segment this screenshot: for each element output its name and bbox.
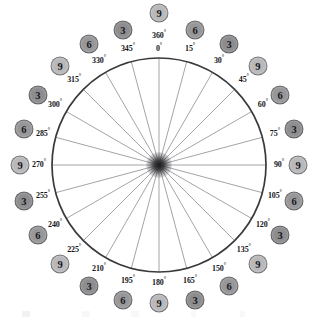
degree-label-30: 30°: [214, 57, 224, 65]
value-badge-330: 6: [80, 34, 99, 53]
degree-label-360: 360°: [152, 32, 166, 40]
value-badge-270: 9: [11, 156, 30, 175]
value-badge-210: 3: [80, 277, 99, 296]
value-badge-15: 6: [186, 20, 205, 39]
degree-label-75: 75°: [270, 130, 280, 138]
degree-label-60: 60°: [258, 101, 268, 109]
spoke-lines: [52, 58, 266, 272]
degree-label-180: 180°: [152, 279, 166, 287]
value-badge-105: 6: [285, 192, 304, 211]
value-badge-195: 6: [113, 291, 132, 310]
degree-label-150: 150°: [212, 265, 226, 273]
degree-label-345: 345°: [121, 45, 135, 53]
value-badge-30: 3: [220, 34, 239, 53]
degree-label-120: 120°: [256, 221, 270, 229]
degree-label-165: 165°: [183, 277, 197, 285]
degree-label-270: 270°: [32, 161, 46, 169]
degree-label-300: 300°: [48, 101, 62, 109]
degree-label-15: 15°: [185, 45, 195, 53]
degree-label-315: 315°: [67, 76, 81, 84]
degree-label-240: 240°: [48, 221, 62, 229]
degree-label-210: 210°: [92, 265, 106, 273]
degree-label-285: 285°: [36, 130, 50, 138]
value-badge-135: 9: [248, 254, 267, 273]
value-badge-285: 6: [14, 119, 33, 138]
degree-label-135: 135°: [237, 246, 251, 254]
degree-label-330: 330°: [92, 57, 106, 65]
value-badge-315: 9: [51, 57, 70, 76]
value-badge-240: 6: [28, 226, 47, 245]
value-badge-120: 3: [271, 226, 290, 245]
value-badge-0: 9: [150, 4, 169, 23]
value-badge-165: 3: [186, 291, 205, 310]
value-badge-225: 9: [51, 254, 70, 273]
degree-label-255: 255°: [36, 192, 50, 200]
degree-label-45: 45°: [239, 76, 249, 84]
degree-label-225: 225°: [67, 246, 81, 254]
value-badge-255: 3: [14, 192, 33, 211]
value-badge-60: 6: [271, 86, 290, 105]
value-badge-90: 9: [289, 156, 308, 175]
degree-wheel-diagram: 0°15°30°45°60°75°90°105°120°135°150°165°…: [0, 0, 316, 321]
value-badge-45: 9: [248, 57, 267, 76]
value-badge-150: 6: [220, 277, 239, 296]
degree-label-0: 0°: [156, 45, 162, 53]
degree-label-90: 90°: [274, 161, 284, 169]
degree-label-195: 195°: [121, 277, 135, 285]
value-badge-75: 3: [285, 119, 304, 138]
value-badge-345: 3: [113, 20, 132, 39]
degree-label-105: 105°: [268, 192, 282, 200]
value-badge-300: 3: [28, 86, 47, 105]
value-badge-180: 9: [150, 294, 169, 313]
